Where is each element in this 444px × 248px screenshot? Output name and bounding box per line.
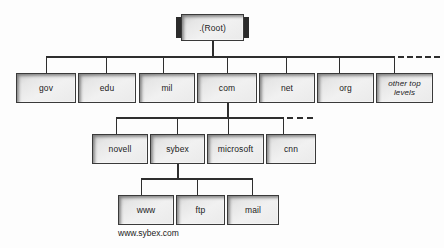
node-com[interactable]: com <box>197 73 257 103</box>
connector-second-level-dashed-extension <box>287 117 313 119</box>
connector-top-level-dashed-extension <box>398 56 440 58</box>
connector-stem-net <box>286 56 287 74</box>
connector-com-stem <box>227 103 229 118</box>
connector-stem-ftp <box>197 178 198 196</box>
connector-stem-microsoft <box>228 117 229 135</box>
connector-top-level-bus <box>46 56 395 58</box>
connector-stem-com <box>227 56 228 74</box>
node-org-label: org <box>337 83 354 93</box>
node-sybex[interactable]: sybex <box>150 134 205 164</box>
node-root-label: .(Root) <box>197 23 228 33</box>
node-mil[interactable]: mil <box>139 73 195 103</box>
connector-stem-org <box>339 56 340 74</box>
fqdn-caption: www.sybex.com <box>118 228 179 238</box>
node-org[interactable]: org <box>317 73 374 103</box>
node-sybex-label: sybex <box>164 144 191 154</box>
connector-second-level-bus <box>116 117 283 119</box>
dns-hierarchy-diagram: .(Root) gov edu mil com net org other to… <box>0 0 444 248</box>
node-ftp-label: ftp <box>194 205 208 215</box>
node-cnn-label: cnn <box>282 144 300 154</box>
node-other-top-levels-label: other top levels <box>377 79 432 98</box>
node-novell-label: novell <box>107 144 134 154</box>
connector-stem-cnn <box>283 117 284 135</box>
node-edu-label: edu <box>98 83 116 93</box>
node-other-top-levels[interactable]: other top levels <box>376 73 433 103</box>
connector-stem-other-top-levels <box>394 56 395 74</box>
node-microsoft[interactable]: microsoft <box>207 134 264 164</box>
connector-stem-gov <box>46 56 47 74</box>
node-www-label: www <box>135 205 158 215</box>
node-gov[interactable]: gov <box>16 73 76 103</box>
node-microsoft-label: microsoft <box>216 144 255 154</box>
node-edu[interactable]: edu <box>78 73 136 103</box>
node-net-label: net <box>279 83 295 93</box>
connector-sybex-stem <box>177 164 179 179</box>
connector-stem-www <box>141 178 142 196</box>
connector-stem-edu <box>106 56 107 74</box>
node-novell[interactable]: novell <box>92 134 148 164</box>
node-gov-label: gov <box>37 83 55 93</box>
node-root[interactable]: .(Root) <box>181 14 244 41</box>
connector-stem-mail <box>252 178 253 196</box>
node-ftp[interactable]: ftp <box>176 195 225 225</box>
node-mail-label: mail <box>243 205 263 215</box>
connector-root-stem <box>212 41 214 57</box>
node-mail[interactable]: mail <box>227 195 279 225</box>
node-com-label: com <box>217 83 237 93</box>
node-www[interactable]: www <box>118 195 174 225</box>
node-mil-label: mil <box>159 83 174 93</box>
node-cnn[interactable]: cnn <box>266 134 316 164</box>
connector-stem-novell <box>116 117 117 135</box>
node-net[interactable]: net <box>259 73 315 103</box>
connector-stem-sybex <box>177 117 178 135</box>
connector-stem-mil <box>163 56 164 74</box>
